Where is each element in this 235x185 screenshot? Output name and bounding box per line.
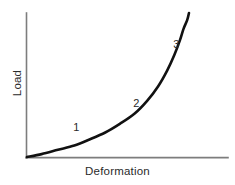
annotation-label-2: 2 — [133, 98, 139, 109]
plot-area — [0, 0, 235, 185]
annotation-label-3: 3 — [173, 39, 179, 50]
annotation-label-1: 1 — [73, 122, 79, 133]
load-deformation-figure: 1 2 3 Load Deformation — [0, 0, 235, 185]
x-axis-label: Deformation — [0, 165, 235, 177]
load-deformation-curve — [27, 13, 189, 157]
y-axis-label-container: Load — [10, 60, 24, 106]
y-axis-label: Load — [11, 70, 23, 96]
